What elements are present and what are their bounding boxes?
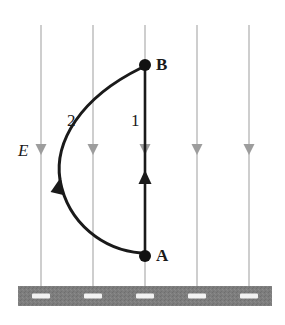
field-arrow-2: [88, 144, 99, 155]
point-a-dot: [139, 250, 151, 262]
path-label-2: 2: [67, 112, 76, 129]
trajectory-path-group: [51, 68, 152, 253]
ground-dash-5: [240, 294, 258, 299]
field-arrow-1: [36, 144, 47, 155]
point-label-b: B: [156, 56, 167, 73]
ground-dash-4: [188, 294, 206, 299]
field-label-E: E: [18, 142, 28, 159]
path-label-1: 1: [131, 112, 140, 129]
ground-group: [18, 286, 272, 306]
diagram-canvas: [0, 0, 285, 325]
field-arrow-4: [192, 144, 203, 155]
ground-dash-2: [84, 294, 102, 299]
path-2: [59, 68, 141, 253]
ground-dash-1: [32, 294, 50, 299]
field-arrow-5: [244, 144, 255, 155]
point-label-a: A: [156, 247, 168, 264]
ground-dash-3: [136, 294, 154, 299]
electric-field-diagram: E 1 2 B A: [0, 0, 285, 325]
path-1-arrowhead: [139, 170, 152, 184]
point-b-dot: [139, 59, 151, 71]
